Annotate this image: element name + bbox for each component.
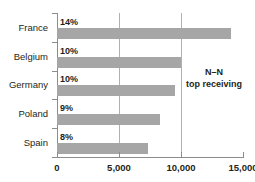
bar-germany xyxy=(57,85,175,96)
bar-france xyxy=(57,28,231,39)
x-tick-mark-0 xyxy=(57,152,58,157)
x-tick-label-3: 15,000 xyxy=(228,162,255,173)
annotation-line-2: top receiving xyxy=(175,78,253,90)
x-tick-label-2: 10,000 xyxy=(166,162,195,173)
x-tick-mark-2 xyxy=(181,152,182,157)
annotation-line-1: N–N xyxy=(175,66,253,78)
bar-label-belgium: 10% xyxy=(60,46,78,57)
category-axis-labels: France Belgium Germany Poland Spain xyxy=(0,13,52,157)
bar-row-spain: 8% xyxy=(57,128,243,157)
bar-spain xyxy=(57,143,148,154)
bar-label-poland: 9% xyxy=(60,103,73,114)
x-tick-mark-1 xyxy=(119,152,120,157)
x-tick-mark-3 xyxy=(243,152,244,157)
x-tick-label-1: 5,000 xyxy=(107,162,131,173)
category-label-belgium: Belgium xyxy=(0,42,52,71)
category-label-spain: Spain xyxy=(0,128,52,157)
chart-annotation: N–N top receiving xyxy=(175,66,253,90)
category-label-france: France xyxy=(0,13,52,42)
bar-row-poland: 9% xyxy=(57,99,243,128)
bar-label-germany: 10% xyxy=(60,74,78,85)
x-axis-ticks: 0 5,000 10,000 15,000 xyxy=(0,160,255,180)
category-label-germany: Germany xyxy=(0,71,52,100)
bar-belgium xyxy=(57,57,181,68)
bar-label-france: 14% xyxy=(60,17,78,28)
bar-poland xyxy=(57,114,160,125)
bar-label-spain: 8% xyxy=(60,132,73,143)
bar-row-france: 14% xyxy=(57,13,243,42)
bar-chart: France Belgium Germany Poland Spain 14% … xyxy=(0,0,255,182)
x-axis-line xyxy=(57,157,244,158)
x-tick-label-0: 0 xyxy=(54,162,59,173)
category-label-poland: Poland xyxy=(0,99,52,128)
